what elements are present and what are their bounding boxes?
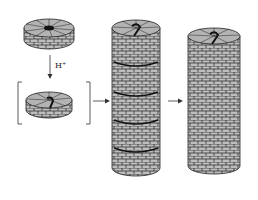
arrow-stacking: [93, 99, 110, 104]
diagram-canvas: [0, 0, 258, 200]
stacked-column: [112, 20, 160, 176]
arrow-fusion: [168, 99, 183, 104]
fused-tube: [188, 28, 240, 174]
arrow-label-h-plus: H⁺: [55, 61, 66, 70]
arrow-protonation: [48, 55, 53, 79]
monomer-disk: [24, 19, 74, 49]
protonated-disk: [26, 92, 72, 118]
